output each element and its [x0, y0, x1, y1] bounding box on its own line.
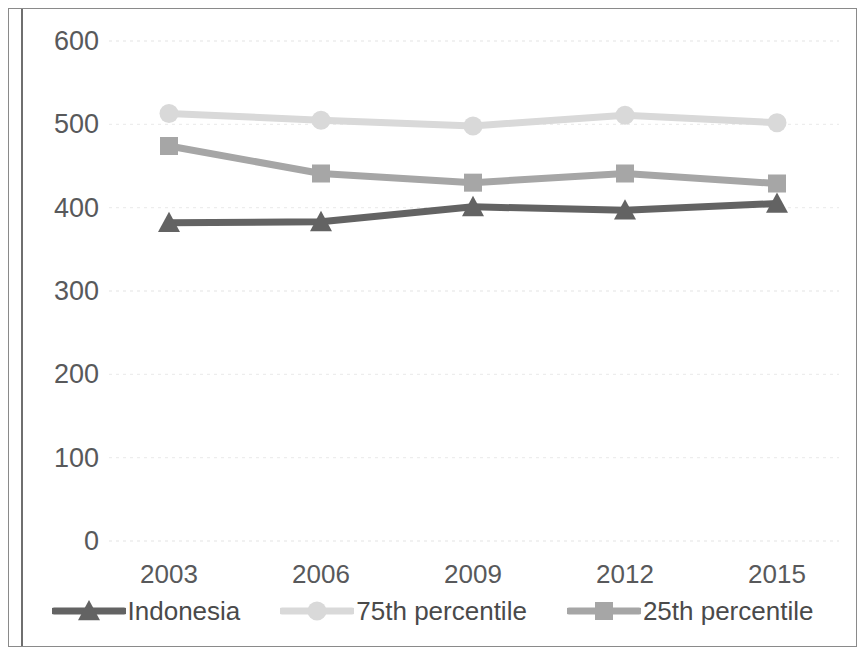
- legend-item-indonesia[interactable]: Indonesia: [52, 597, 241, 625]
- circle-data-point-marker: [308, 602, 327, 621]
- square-data-point-marker: [595, 602, 613, 620]
- legend-item-25th-percentile[interactable]: 25th percentile: [567, 597, 814, 625]
- square-marker-icon: [567, 597, 641, 625]
- chart-plot-area: 6005004003002001000 20032006200920122015…: [9, 9, 856, 646]
- legend-item-75th-percentile[interactable]: 75th percentile: [280, 597, 527, 625]
- chart-frame: 6005004003002001000 20032006200920122015…: [8, 8, 857, 647]
- x-axis-tick-labels: 20032006200920122015: [9, 9, 856, 646]
- chart-legend: Indonesia75th percentile25th percentile: [9, 597, 856, 625]
- x-axis-tick-label: 2012: [596, 561, 654, 587]
- legend-item-label: 25th percentile: [643, 598, 814, 624]
- x-axis-tick-label: 2009: [444, 561, 502, 587]
- legend-item-label: Indonesia: [128, 598, 241, 624]
- circle-marker-icon: [280, 597, 354, 625]
- x-axis-tick-label: 2003: [140, 561, 198, 587]
- x-axis-tick-label: 2015: [748, 561, 806, 587]
- x-axis-tick-label: 2006: [292, 561, 350, 587]
- triangle-marker-icon: [52, 597, 126, 625]
- legend-item-label: 75th percentile: [356, 598, 527, 624]
